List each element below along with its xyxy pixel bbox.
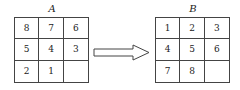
grid-b-cell: 1 [156, 18, 180, 39]
grid-a-label: A [14, 3, 90, 15]
grid-b-cell: 3 [205, 18, 229, 39]
grid-a-cell: 2 [15, 61, 39, 82]
grid-a-cell: 4 [39, 39, 63, 60]
grid-a-cell-empty [64, 61, 88, 82]
grid-b-cell: 6 [205, 39, 229, 60]
grid-a-cell: 7 [39, 18, 63, 39]
grid-b-cell-empty [205, 61, 229, 82]
grid-a-cell: 6 [64, 18, 88, 39]
grid-a: 8 7 6 5 4 3 2 1 [14, 17, 89, 83]
grid-a-cell: 8 [15, 18, 39, 39]
right-arrow-icon [93, 44, 151, 62]
grid-b-cell: 2 [180, 18, 204, 39]
grid-b-cell: 7 [156, 61, 180, 82]
grid-b-cell: 4 [156, 39, 180, 60]
grid-a-cell: 1 [39, 61, 63, 82]
grid-a-cell: 3 [64, 39, 88, 60]
grid-a-cell: 5 [15, 39, 39, 60]
grid-b: 1 2 3 4 5 6 7 8 [155, 17, 230, 83]
grid-b-cell: 5 [180, 39, 204, 60]
grid-b-label: B [155, 3, 231, 15]
grid-b-cell: 8 [180, 61, 204, 82]
